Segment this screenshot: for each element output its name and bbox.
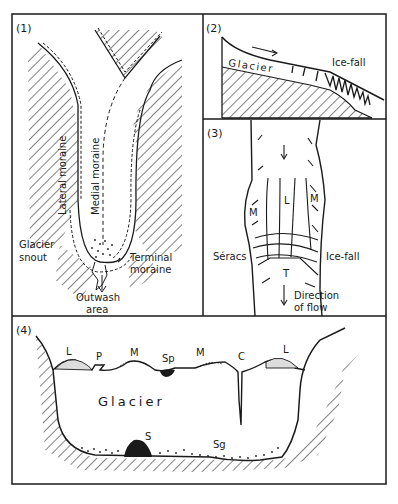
label-C: C <box>238 351 245 362</box>
label-medial-moraine: Medial moraine <box>90 138 101 215</box>
panel-4-number: (4) <box>16 324 32 337</box>
panel-2: (2) Glacier Ice-fall <box>206 22 384 118</box>
valley-wall-right <box>133 60 182 258</box>
snout-debris <box>91 239 113 258</box>
label-Sp: Sp <box>162 353 175 364</box>
bedrock-profile <box>222 67 372 118</box>
label-direction-2: of flow <box>294 302 327 313</box>
subglacial-boulder <box>124 440 152 457</box>
valley-edge-right <box>316 120 325 316</box>
label-direction-1: Direction <box>294 290 339 301</box>
label-M-right: M <box>310 193 319 204</box>
label-seracs: Séracs <box>213 251 246 262</box>
valley-wall-left <box>28 43 78 250</box>
panel-1: (1) Lateral moraine Medial <box>16 22 182 315</box>
label-lateral-moraine: Lateral moraine <box>57 136 68 215</box>
label-L: L <box>284 195 290 206</box>
panel-3-number: (3) <box>207 127 223 140</box>
label-L-left: L <box>66 346 72 357</box>
valley-edge-left <box>245 120 255 316</box>
label-Sg: Sg <box>213 439 226 450</box>
panel-2-number: (2) <box>206 22 222 35</box>
label-M-left: M <box>130 347 139 358</box>
panel-1-number: (1) <box>16 22 32 35</box>
label-glacier-snout-1: Glacier <box>19 239 55 250</box>
label-M-left: M <box>249 207 258 218</box>
supraglacial-debris <box>160 369 175 377</box>
label-icefall: Ice-fall <box>326 251 359 262</box>
glacier-diagram: (1) Lateral moraine Medial <box>0 0 398 504</box>
label-outwash-2: area <box>86 304 108 315</box>
label-glacier-snout-2: snout <box>19 252 47 263</box>
label-M-right: M <box>196 347 205 358</box>
label-icefall: Ice-fall <box>332 57 365 68</box>
label-terminal-moraine-1: Terminal <box>129 252 172 263</box>
label-S: S <box>145 431 151 442</box>
label-L-right: L <box>283 344 289 355</box>
glacier-bed-outline <box>36 328 345 461</box>
label-terminal-moraine-2: moraine <box>130 264 171 275</box>
label-glacier: Glacier <box>98 394 165 409</box>
panel-4: (4) L P M Sp M C L Glacier <box>16 324 380 472</box>
label-T: T <box>282 268 290 279</box>
label-outwash-1: Outwash <box>76 292 120 303</box>
panel-3: (3) L M M T Séracs Ic <box>207 120 359 316</box>
label-P: P <box>96 351 102 362</box>
